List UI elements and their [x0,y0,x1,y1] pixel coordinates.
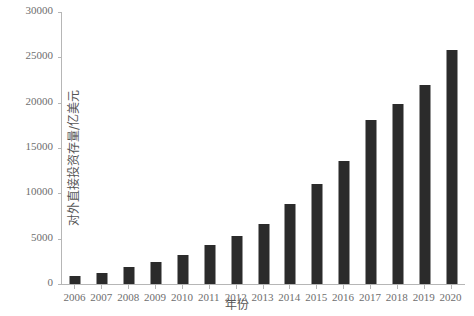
y-axis-tick-label: 20000 [26,95,54,107]
x-axis-tick-mark [74,285,75,289]
y-axis-tick-label: 25000 [26,49,54,61]
bar [151,262,162,284]
x-axis-tick-mark [209,285,210,289]
x-axis-tick-mark [101,285,102,289]
x-axis-tick-mark [155,285,156,289]
bar [97,273,108,284]
x-axis-tick-mark [370,285,371,289]
bar [312,184,323,284]
bar [204,245,215,284]
chart-figure: 对外直接投资存量/亿美元 050001000015000200002500030… [0,0,474,316]
x-axis-label: 年份 [0,295,474,312]
bar [392,104,403,284]
y-axis-tick-label: 0 [48,276,54,288]
x-axis-tick-mark [397,285,398,289]
bar [124,267,135,284]
x-axis-tick-mark [343,285,344,289]
y-axis-tick-mark [58,239,62,240]
bar [177,255,188,284]
x-axis-tick-mark [236,285,237,289]
bar [365,120,376,284]
x-axis-tick-mark [451,285,452,289]
plot-area: 050001000015000200002500030000 [62,12,465,284]
y-axis-tick-label: 30000 [26,4,54,16]
bar [285,204,296,284]
bar [70,276,81,284]
x-axis-tick-mark [128,285,129,289]
bar [258,224,269,284]
x-axis-tick-mark [424,285,425,289]
y-axis-tick-mark [58,12,62,13]
y-axis-tick-label: 5000 [31,231,53,243]
y-axis-tick-label: 15000 [26,140,54,152]
bar [419,85,430,284]
bar [231,236,242,284]
y-axis-tick-mark [58,103,62,104]
bar [339,161,350,284]
x-axis-tick-mark [263,285,264,289]
y-axis-tick-label: 10000 [26,185,54,197]
y-axis-tick-mark [58,148,62,149]
x-axis-tick-mark [316,285,317,289]
bar [446,50,457,284]
x-axis-tick-mark [182,285,183,289]
y-axis-tick-mark [58,57,62,58]
x-axis-tick-mark [289,285,290,289]
y-axis-tick-mark [58,193,62,194]
